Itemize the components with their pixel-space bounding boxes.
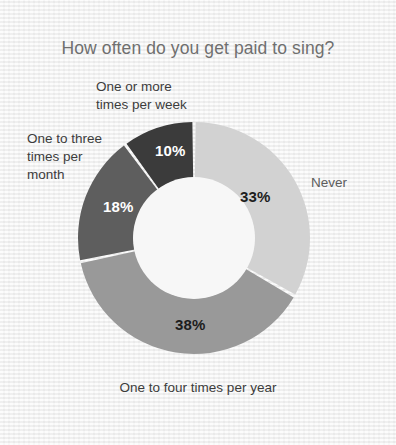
chart-title: How often do you get paid to sing? <box>0 38 396 59</box>
donut-hub <box>133 177 255 299</box>
slice-value-never: 33% <box>240 188 271 205</box>
slice-label-one-or-more-times-per-week: One or more times per week <box>96 78 187 114</box>
slice-label-one-to-three-times-per-month: One to three times per month <box>27 130 102 183</box>
slice-value-one-to-three-times-per-month: 18% <box>103 198 134 215</box>
chart-figure: How often do you get paid to sing? One o… <box>0 0 396 445</box>
slice-label-never: Never <box>311 174 347 192</box>
slice-label-one-to-four-times-per-year: One to four times per year <box>0 379 396 397</box>
slice-value-one-or-more-times-per-week: 10% <box>155 142 186 159</box>
slice-value-one-to-four-times-per-year: 38% <box>175 316 206 333</box>
